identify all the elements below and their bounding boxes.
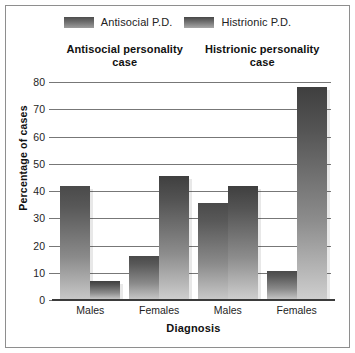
y-tick-50 — [49, 164, 56, 165]
group-title-antisocial: Antisocial personality case — [56, 43, 194, 69]
y-tick-label-60: 60 — [33, 131, 45, 143]
bar-1-males-histrionic — [90, 281, 120, 300]
bar-2-females-antisocial — [267, 271, 297, 300]
bar-group-1 — [56, 82, 194, 300]
x-axis-line — [52, 299, 335, 301]
y-axis-title: Percentage of cases — [17, 88, 29, 228]
chart-legend: Antisocial P.D. Histrionic P.D. — [0, 16, 355, 28]
group-title-antisocial-line2: case — [112, 56, 137, 68]
bar-cluster-females-1 — [125, 82, 194, 300]
bar-1-females-antisocial — [129, 256, 159, 300]
y-tick-80 — [49, 82, 56, 83]
group-title-histrionic-line1: Histrionic personality — [205, 43, 320, 55]
y-tick-10 — [49, 273, 56, 274]
x-axis-title: Diagnosis — [56, 322, 331, 334]
bar-1-females-histrionic — [159, 176, 189, 300]
x-group-1: Males Females — [56, 304, 194, 316]
legend-swatch-histrionic-icon — [184, 17, 214, 28]
y-tick-label-10: 10 — [33, 267, 45, 279]
x-tick-label-females-2: Females — [262, 304, 331, 316]
x-axis-tick-labels: Males Females Males Females — [56, 304, 331, 316]
y-tick-label-0: 0 — [39, 294, 45, 306]
bar-2-females-histrionic — [297, 87, 327, 300]
bar-cluster-females-2 — [262, 82, 331, 300]
y-tick-label-20: 20 — [33, 240, 45, 252]
legend-entry-antisocial: Antisocial P.D. — [64, 16, 173, 28]
group-titles: Antisocial personality case Histrionic p… — [56, 43, 331, 69]
x-group-2: Males Females — [194, 304, 332, 316]
legend-swatch-antisocial-icon — [64, 17, 94, 28]
y-tick-60 — [49, 137, 56, 138]
bar-2-males-histrionic — [228, 186, 258, 300]
bar-2-males-antisocial — [198, 203, 228, 300]
legend-entry-histrionic: Histrionic P.D. — [184, 16, 291, 28]
y-tick-label-80: 80 — [33, 76, 45, 88]
chart-figure: Antisocial P.D. Histrionic P.D. Antisoci… — [0, 0, 355, 353]
y-tick-label-30: 30 — [33, 212, 45, 224]
y-tick-label-70: 70 — [33, 103, 45, 115]
y-tick-label-40: 40 — [33, 185, 45, 197]
plot-area: 01020304050607080 — [56, 82, 331, 300]
y-tick-20 — [49, 246, 56, 247]
x-tick-label-males-2: Males — [194, 304, 263, 316]
group-title-antisocial-line1: Antisocial personality — [66, 43, 183, 55]
legend-label-histrionic: Histrionic P.D. — [221, 16, 291, 28]
bar-series — [56, 82, 331, 300]
group-title-histrionic-line2: case — [250, 56, 275, 68]
bar-cluster-males-2 — [194, 82, 263, 300]
x-tick-label-females-1: Females — [125, 304, 194, 316]
y-tick-40 — [49, 191, 56, 192]
x-tick-label-males-1: Males — [56, 304, 125, 316]
bar-group-2 — [194, 82, 332, 300]
bar-cluster-males-1 — [56, 82, 125, 300]
y-tick-label-50: 50 — [33, 158, 45, 170]
y-tick-30 — [49, 218, 56, 219]
y-tick-70 — [49, 109, 56, 110]
bar-1-males-antisocial — [60, 186, 90, 300]
group-title-histrionic: Histrionic personality case — [194, 43, 332, 69]
legend-label-antisocial: Antisocial P.D. — [101, 16, 173, 28]
